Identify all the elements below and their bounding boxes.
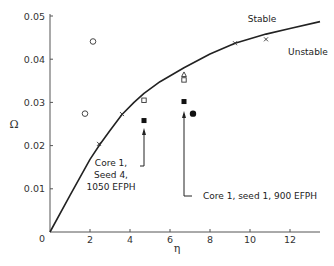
x-tick-label: 10 (244, 234, 256, 245)
marker-circle-open (90, 39, 96, 45)
annotation-1-line: 1050 EFPH (87, 182, 136, 192)
x-tick-label: 6 (167, 234, 173, 245)
stability-chart: 246810120.010.020.030.040.05 Core 1,Seed… (0, 0, 334, 266)
x-axis-label: η (174, 242, 181, 255)
y-tick-label: 0.02 (24, 140, 45, 151)
marker-x (264, 37, 268, 41)
marker-square-open (142, 98, 146, 102)
y-tick-label: 0.01 (24, 183, 45, 194)
x-tick-label: 2 (87, 234, 93, 245)
arrow-leader-1 (140, 131, 144, 166)
arrowhead-1 (142, 128, 146, 135)
marker-triangle-open (182, 72, 187, 77)
arrowhead-2 (182, 111, 186, 118)
marker-circle-open (82, 111, 88, 117)
marker-square-filled (142, 118, 147, 123)
annotation-1-line: Seed 4, (94, 170, 128, 180)
y-tick-label: 0.05 (24, 11, 45, 22)
y-tick-label: 0.04 (24, 54, 45, 65)
unstable-region-label: Unstable (288, 47, 328, 57)
marker-circle-filled (190, 110, 196, 116)
x-tick-label: 8 (207, 234, 213, 245)
origin-label: 0 (39, 233, 45, 244)
annotation-1-line: Core 1, (95, 158, 127, 168)
marker-square-open (182, 78, 186, 82)
arrow-leader-2 (184, 114, 192, 196)
marker-square-filled (182, 99, 187, 104)
stable-region-label: Stable (248, 14, 277, 24)
y-axis-label: Ω (9, 118, 18, 131)
y-tick-label: 0.03 (24, 97, 45, 108)
annotations: Core 1,Seed 4,1050 EFPHCore 1, seed 1, 9… (87, 111, 317, 201)
x-tick-label: 4 (127, 234, 133, 245)
x-tick-label: 12 (284, 234, 296, 245)
annotation-2-line: Core 1, seed 1, 900 EFPH (203, 191, 317, 201)
axis-ticks: 246810120.010.020.030.040.05 (24, 11, 296, 246)
